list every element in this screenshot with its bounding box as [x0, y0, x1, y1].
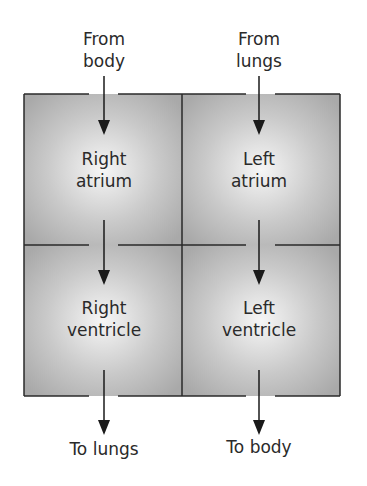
chamber-left-atrium: Left atrium — [189, 148, 329, 192]
arrowhead-icon — [253, 420, 265, 435]
chamber-label: Right — [34, 148, 174, 170]
chamber-right-atrium: Right atrium — [34, 148, 174, 192]
chamber-left-ventricle: Left ventricle — [189, 297, 329, 341]
label-line: lungs — [189, 50, 329, 72]
label-to-lungs: To lungs — [34, 438, 174, 460]
chamber-label: Right — [34, 297, 174, 319]
chamber-label: atrium — [189, 170, 329, 192]
label-line: From — [189, 28, 329, 50]
chamber-label: Left — [189, 297, 329, 319]
chamber-label: ventricle — [189, 319, 329, 341]
label-line: From — [34, 28, 174, 50]
chamber-label: atrium — [34, 170, 174, 192]
label-from-lungs: From lungs — [189, 28, 329, 72]
label-line: body — [34, 50, 174, 72]
chamber-right-ventricle: Right ventricle — [34, 297, 174, 341]
heart-diagram — [0, 0, 367, 486]
arrowhead-icon — [98, 420, 110, 435]
chamber-label: ventricle — [34, 319, 174, 341]
label-to-body: To body — [189, 436, 329, 458]
label-from-body: From body — [34, 28, 174, 72]
chamber-label: Left — [189, 148, 329, 170]
